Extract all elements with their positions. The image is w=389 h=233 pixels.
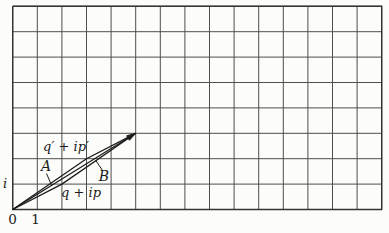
- lattice-figure: i 0 1 q′ + ip′ q + ip A B: [0, 0, 389, 233]
- origin-label: 0: [5, 213, 20, 227]
- point-label-q-prime-ip-prime: q′ + ip′: [40, 140, 92, 153]
- imaginary-unit-label: i: [0, 177, 12, 190]
- point-label-q-ip: q + ip: [56, 186, 106, 199]
- leader-line-a: [47, 174, 52, 186]
- leader-lines: [47, 160, 103, 185]
- x-unit-label: 1: [28, 213, 43, 227]
- region-label-a: A: [38, 159, 54, 173]
- region-label-b: B: [96, 169, 112, 183]
- lattice-grid: [13, 6, 382, 209]
